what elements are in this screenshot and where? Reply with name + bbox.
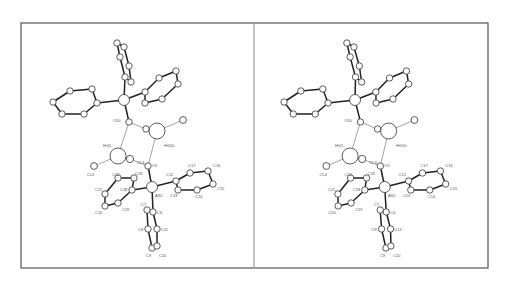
atom-label: C18 bbox=[120, 187, 128, 192]
atom-b6 bbox=[128, 79, 134, 85]
atom-c6 bbox=[142, 100, 148, 106]
atom-c11 bbox=[154, 226, 160, 232]
atom-label: O50 bbox=[344, 118, 352, 123]
atom-a1 bbox=[50, 99, 56, 105]
atom-a4 bbox=[325, 100, 331, 106]
atom-o5 bbox=[377, 163, 383, 169]
atom-b3 bbox=[117, 54, 123, 60]
atom-label: AS2 bbox=[388, 193, 396, 198]
atom-a1 bbox=[281, 99, 287, 105]
atom-c12 bbox=[405, 178, 411, 184]
atom-label: HG10 bbox=[396, 143, 407, 148]
atom-label: C18 bbox=[353, 187, 361, 192]
right-stereo-panel: O50HG10HG1CL3O5CL4C23C22C21C18C19C20AS2C… bbox=[281, 40, 458, 258]
atom-o5 bbox=[145, 163, 151, 169]
atom-w3 bbox=[126, 155, 133, 162]
atom-as2 bbox=[379, 182, 390, 193]
atom-a5 bbox=[81, 111, 87, 117]
atom-b5 bbox=[352, 74, 358, 80]
atom-c7 bbox=[377, 207, 383, 213]
atom-c14 bbox=[194, 187, 200, 193]
atom-p1 bbox=[119, 95, 130, 106]
atom-label: C15 bbox=[450, 186, 458, 191]
atom-b3 bbox=[347, 54, 353, 60]
atom-c3 bbox=[173, 68, 179, 74]
atom-hg1 bbox=[342, 148, 358, 164]
atom-w2 bbox=[180, 117, 187, 124]
atom-o50 bbox=[357, 119, 363, 125]
atom-label: C23 bbox=[368, 171, 376, 176]
atom-label: C12 bbox=[399, 172, 407, 177]
atom-c10 bbox=[154, 243, 160, 249]
atom-b4 bbox=[126, 63, 132, 69]
atom-c18 bbox=[362, 187, 368, 193]
atom-c11 bbox=[387, 226, 393, 232]
atom-c18 bbox=[129, 187, 135, 193]
atom-b5 bbox=[122, 74, 128, 80]
atom-hg1 bbox=[110, 148, 126, 164]
atom-label: C16 bbox=[213, 163, 221, 168]
atom-label: CL3 bbox=[369, 160, 377, 165]
atom-c20 bbox=[335, 203, 341, 209]
atom-b2 bbox=[121, 44, 127, 50]
atom-a6 bbox=[290, 111, 296, 117]
atom-c20 bbox=[102, 203, 108, 209]
atom-a3 bbox=[89, 86, 95, 92]
atom-label: C9 bbox=[146, 253, 152, 258]
molecular-structure-stereo-pair: O50HG10HG1CL3O5CL4C23C22C21C18C19C20AS2C… bbox=[0, 0, 506, 286]
atom-label: C6 bbox=[390, 210, 396, 215]
atom-c17 bbox=[187, 170, 193, 176]
stereo-figure: O50HG10HG1CL3O5CL4C23C22C21C18C19C20AS2C… bbox=[0, 0, 506, 286]
atom-label: C17 bbox=[420, 163, 428, 168]
atom-p1 bbox=[350, 95, 361, 106]
atom-label: C15 bbox=[217, 186, 225, 191]
atom-label: O5 bbox=[152, 163, 158, 168]
atom-c19 bbox=[348, 200, 354, 206]
atom-as2 bbox=[147, 182, 158, 193]
atom-label: C6 bbox=[157, 210, 163, 215]
atom-b4 bbox=[356, 63, 362, 69]
atom-label: O50 bbox=[113, 118, 121, 123]
atom-label: C7 bbox=[374, 202, 380, 207]
atom-c14 bbox=[427, 187, 433, 193]
atom-c10 bbox=[388, 243, 394, 249]
atom-label: C17 bbox=[188, 163, 196, 168]
atom-label: C19 bbox=[122, 207, 130, 212]
atom-c15 bbox=[210, 181, 216, 187]
atom-label: C13 bbox=[170, 193, 178, 198]
atom-b6 bbox=[358, 79, 364, 85]
atom-c2 bbox=[386, 75, 392, 81]
atom-label: CL4 bbox=[320, 172, 328, 177]
atom-c17 bbox=[419, 170, 425, 176]
atom-label: C14 bbox=[195, 194, 203, 199]
atom-b1 bbox=[114, 40, 120, 46]
atom-c8 bbox=[145, 226, 151, 232]
atom-label: C20 bbox=[95, 210, 103, 215]
atom-label: C22 bbox=[112, 172, 120, 177]
atom-label: C22 bbox=[345, 172, 353, 177]
atom-label: C16 bbox=[445, 163, 453, 168]
atom-a6 bbox=[59, 111, 65, 117]
atom-o50 bbox=[126, 119, 132, 125]
atom-label: C13 bbox=[403, 193, 411, 198]
atom-label: C12 bbox=[166, 172, 174, 177]
atom-c5 bbox=[390, 96, 396, 102]
atom-label: C11 bbox=[395, 227, 403, 232]
atom-cl4 bbox=[91, 163, 98, 170]
atom-c21 bbox=[335, 191, 341, 197]
atom-a2 bbox=[67, 88, 73, 94]
atom-cl4 bbox=[323, 163, 330, 170]
atom-label: CL4 bbox=[87, 172, 95, 177]
atom-c6 bbox=[150, 209, 156, 215]
atom-label: C21 bbox=[328, 187, 336, 192]
atom-label: C9 bbox=[380, 253, 386, 258]
atom-c19 bbox=[115, 200, 121, 206]
atom-label: AS2 bbox=[155, 193, 163, 198]
atom-label: HG1 bbox=[335, 143, 344, 148]
atom-label: C7 bbox=[141, 202, 147, 207]
atom-c8 bbox=[378, 226, 384, 232]
atom-c6 bbox=[373, 100, 379, 106]
atom-c3 bbox=[403, 68, 409, 74]
atom-label: C19 bbox=[355, 207, 363, 212]
atom-c5 bbox=[159, 96, 165, 102]
